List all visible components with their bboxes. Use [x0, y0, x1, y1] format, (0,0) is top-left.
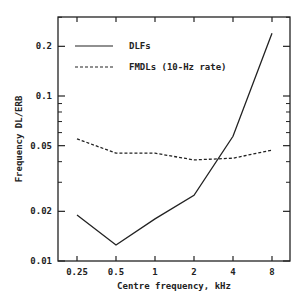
x-axis-label: Centre frequency, kHz	[117, 281, 231, 291]
x-tick-label: 8	[269, 267, 274, 277]
series-fmdls	[77, 139, 272, 160]
x-tick-label: 2	[191, 267, 196, 277]
y-axis-ticks: 0.010.020.050.10.2	[30, 17, 290, 266]
x-tick-label: 4	[230, 267, 236, 277]
legend: DLFs FMDLs (10-Hz rate)	[75, 41, 227, 72]
chart: 0.010.020.050.10.2 0.250.51248 DLFs FMDL…	[0, 0, 305, 303]
x-tick-label: 0.5	[108, 267, 124, 277]
y-tick-label: 0.2	[36, 41, 52, 51]
y-tick-label: 0.01	[30, 256, 52, 266]
plot-frame	[58, 17, 290, 261]
x-tick-label: 1	[152, 267, 157, 277]
legend-label-fmdls: FMDLs (10-Hz rate)	[129, 62, 227, 72]
legend-label-dlfs: DLFs	[129, 41, 151, 51]
y-axis-label: Frequency DL/ERB	[14, 95, 24, 182]
y-tick-label: 0.02	[30, 206, 52, 216]
y-tick-label: 0.05	[30, 141, 52, 151]
y-tick-label: 0.1	[36, 91, 52, 101]
x-tick-label: 0.25	[66, 267, 88, 277]
